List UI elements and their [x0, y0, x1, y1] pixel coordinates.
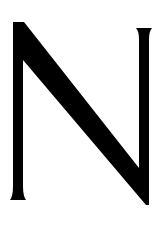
- letter-canvas: N: [0, 0, 154, 228]
- letter-n-glyph: [0, 0, 154, 228]
